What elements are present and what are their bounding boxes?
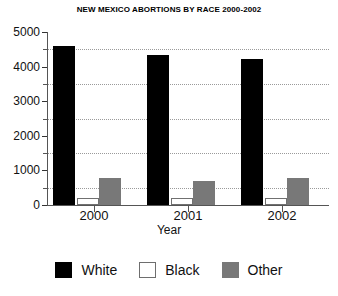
gridline bbox=[48, 84, 329, 86]
y-axis-tick-minor bbox=[43, 49, 47, 50]
legend-swatch-white bbox=[55, 262, 72, 278]
x-axis-tick-label-2001: 2001 bbox=[153, 209, 223, 223]
x-axis-title: Year bbox=[0, 224, 338, 237]
y-axis-tick-minor bbox=[43, 84, 47, 85]
bar-other-2000 bbox=[99, 178, 121, 205]
bar-chart: NEW MEXICO ABORTIONS BY RACE 2000-2002 0… bbox=[0, 0, 338, 296]
y-axis-tick-major bbox=[42, 101, 47, 102]
bar-black-2001 bbox=[171, 198, 193, 205]
gridline bbox=[48, 49, 329, 51]
bar-white-2001 bbox=[147, 55, 169, 206]
y-axis-tick-minor bbox=[43, 119, 47, 120]
chart-legend: WhiteBlackOther bbox=[0, 262, 338, 278]
legend-swatch-black bbox=[139, 262, 156, 278]
plot-inner bbox=[47, 32, 329, 205]
legend-label-white: White bbox=[81, 263, 117, 278]
bar-other-2001 bbox=[193, 181, 215, 205]
bar-other-2002 bbox=[287, 178, 309, 205]
y-axis-tick-major bbox=[42, 32, 47, 33]
legend-item-black: Black bbox=[139, 262, 199, 278]
legend-swatch-other bbox=[222, 262, 239, 278]
y-axis-tick-minor bbox=[43, 153, 47, 154]
y-axis-tick-label: 3000 bbox=[0, 95, 40, 107]
chart-title: NEW MEXICO ABORTIONS BY RACE 2000-2002 bbox=[0, 5, 338, 15]
gridline bbox=[48, 119, 329, 121]
legend-item-other: Other bbox=[222, 262, 283, 278]
legend-item-white: White bbox=[55, 262, 117, 278]
y-axis-tick-label: 5000 bbox=[0, 26, 40, 38]
bar-black-2002 bbox=[265, 198, 287, 205]
y-axis-tick-label: 1000 bbox=[0, 164, 40, 176]
y-axis-tick-minor bbox=[43, 188, 47, 189]
bar-black-2000 bbox=[77, 198, 99, 205]
y-axis-tick-major bbox=[42, 205, 47, 206]
y-axis-tick-label: 2000 bbox=[0, 130, 40, 142]
gridline bbox=[48, 153, 329, 155]
legend-label-other: Other bbox=[248, 263, 283, 278]
y-axis-tick-label: 4000 bbox=[0, 61, 40, 73]
plot-area bbox=[47, 32, 329, 205]
y-axis-tick-major bbox=[42, 67, 47, 68]
legend-label-black: Black bbox=[165, 263, 199, 278]
x-axis-tick-label-2002: 2002 bbox=[247, 209, 317, 223]
x-axis-tick-label-2000: 2000 bbox=[59, 209, 129, 223]
y-axis-tick-label: 0 bbox=[0, 199, 40, 211]
bar-white-2000 bbox=[53, 46, 75, 206]
y-axis-tick-major bbox=[42, 170, 47, 171]
bar-white-2002 bbox=[241, 59, 263, 205]
y-axis-tick-major bbox=[42, 136, 47, 137]
